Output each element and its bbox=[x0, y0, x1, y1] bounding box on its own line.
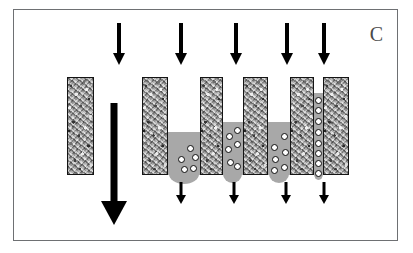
porous-block-1 bbox=[142, 77, 168, 175]
particle-gap-3-2 bbox=[272, 156, 279, 163]
particle-gap-3-0 bbox=[271, 144, 278, 151]
porous-block-4 bbox=[290, 77, 314, 175]
particle-gap-4-0 bbox=[315, 97, 322, 104]
particle-gap-2-1 bbox=[234, 127, 241, 134]
inlet-arrow-4-head bbox=[318, 53, 330, 65]
inlet-arrow-0-shaft bbox=[117, 23, 121, 54]
inlet-arrow-3 bbox=[281, 23, 294, 65]
outlet-arrow-2-shaft bbox=[285, 182, 288, 196]
particle-gap-3-1 bbox=[281, 133, 288, 140]
outlet-arrow-1-head bbox=[229, 195, 239, 204]
particle-gap-3-5 bbox=[281, 164, 288, 171]
porous-block-3 bbox=[243, 77, 268, 175]
outlet-arrow-3-shaft bbox=[323, 182, 326, 196]
outlet-arrow-2-head bbox=[281, 195, 291, 204]
particle-gap-2-5 bbox=[234, 163, 241, 170]
particle-gap-4-5 bbox=[315, 150, 322, 157]
inlet-arrow-0-head bbox=[113, 53, 125, 65]
particle-gap-4-7 bbox=[315, 170, 322, 177]
inlet-arrow-4-shaft bbox=[322, 23, 326, 54]
inlet-arrow-0 bbox=[113, 23, 126, 65]
porous-block-5 bbox=[323, 77, 349, 175]
inlet-arrow-2-shaft bbox=[234, 23, 238, 54]
bulk-flow-arrow bbox=[101, 103, 127, 225]
outlet-arrow-3-head bbox=[319, 195, 329, 204]
particle-gap-3-3 bbox=[282, 149, 289, 156]
particle-gap-1-0 bbox=[178, 156, 185, 163]
particle-gap-1-4 bbox=[190, 165, 197, 172]
inlet-arrow-1-shaft bbox=[179, 23, 183, 54]
inlet-arrow-4 bbox=[318, 23, 331, 65]
porous-block-2 bbox=[200, 77, 223, 175]
inlet-arrow-1-head bbox=[175, 53, 187, 65]
inlet-arrow-2 bbox=[230, 23, 243, 65]
outlet-arrow-0-shaft bbox=[180, 182, 183, 196]
outlet-arrow-1 bbox=[229, 182, 239, 204]
bulk-flow-arrow-head bbox=[101, 201, 127, 225]
panel-label: C bbox=[370, 24, 383, 44]
figure-panel-c: C bbox=[0, 0, 413, 253]
inlet-arrow-2-head bbox=[230, 53, 242, 65]
particle-gap-2-2 bbox=[225, 146, 232, 153]
particle-gap-3-4 bbox=[271, 167, 278, 174]
particle-gap-1-1 bbox=[187, 145, 194, 152]
particle-gap-2-3 bbox=[234, 141, 241, 148]
inlet-arrow-1 bbox=[175, 23, 188, 65]
figure-frame: C bbox=[13, 9, 398, 241]
outlet-arrow-3 bbox=[319, 182, 329, 204]
particle-gap-4-6 bbox=[315, 160, 322, 167]
particle-gap-4-1 bbox=[315, 107, 322, 114]
outlet-arrow-0 bbox=[176, 182, 186, 204]
inlet-arrow-3-shaft bbox=[285, 23, 289, 54]
particle-gap-4-4 bbox=[315, 140, 322, 147]
outlet-arrow-1-shaft bbox=[233, 182, 236, 196]
particle-gap-1-2 bbox=[192, 154, 199, 161]
outlet-arrow-2 bbox=[281, 182, 291, 204]
outlet-arrow-0-head bbox=[176, 195, 186, 204]
particle-gap-4-3 bbox=[315, 129, 322, 136]
bulk-flow-arrow-shaft bbox=[111, 103, 118, 202]
particle-gap-4-2 bbox=[315, 118, 322, 125]
porous-block-reference bbox=[67, 77, 94, 175]
particle-gap-1-3 bbox=[181, 166, 188, 173]
particle-gap-2-4 bbox=[227, 159, 234, 166]
particle-gap-2-0 bbox=[226, 133, 233, 140]
inlet-arrow-3-head bbox=[281, 53, 293, 65]
